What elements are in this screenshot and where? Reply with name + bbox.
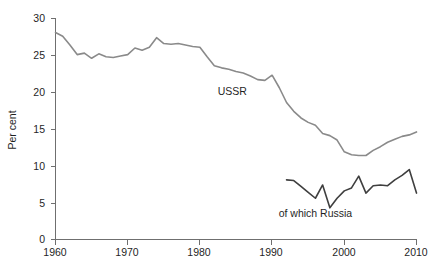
y-tick-marks [51, 19, 56, 240]
series-annotation-ussr: USSR [218, 85, 248, 97]
x-tick-label-2000: 2000 [332, 246, 356, 258]
x-tick-marks [56, 240, 417, 245]
annotation-layer: USSRof which Russia [218, 85, 353, 219]
y-tick-label-15: 15 [33, 123, 45, 135]
x-tick-label-1970: 1970 [115, 246, 139, 258]
line-chart: 30 25 20 15 10 5 0 Per cent 1960 1970 19… [0, 0, 442, 278]
y-tick-label-20: 20 [33, 86, 45, 98]
y-tick-label-10: 10 [33, 160, 45, 172]
y-tick-label-25: 25 [33, 49, 45, 61]
y-tick-label-30: 30 [33, 12, 45, 24]
x-tick-label-1980: 1980 [187, 246, 211, 258]
y-tick-label-0: 0 [39, 233, 45, 245]
y-tick-labels: 30 25 20 15 10 5 0 [33, 12, 45, 245]
y-tick-label-5: 5 [39, 197, 45, 209]
y-axis-title: Per cent [6, 110, 18, 149]
chart-figure: 30 25 20 15 10 5 0 Per cent 1960 1970 19… [0, 0, 442, 278]
series-line-of-which-russia [287, 170, 417, 208]
x-tick-label-1990: 1990 [259, 246, 283, 258]
x-tick-label-2010: 2010 [404, 246, 428, 258]
x-tick-labels: 1960 1970 1980 1990 2000 2010 [43, 246, 428, 258]
series-annotation-of-which-russia: of which Russia [279, 207, 353, 219]
series-layer [56, 33, 417, 208]
x-tick-label-1960: 1960 [43, 246, 67, 258]
